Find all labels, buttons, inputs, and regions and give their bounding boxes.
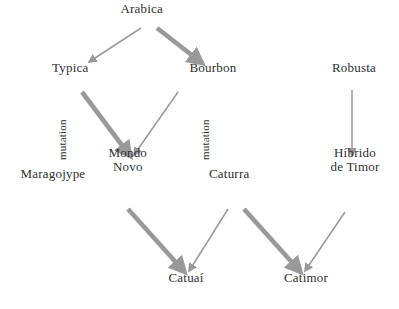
node-maragojype: Maragojype <box>21 167 86 181</box>
edge-label-mutation-typica: mutation <box>56 119 68 160</box>
node-typica: Typica <box>52 61 88 75</box>
arrow-arabica-to-bourbon <box>157 28 198 60</box>
node-catimor: Catimor <box>284 271 328 285</box>
arrow-caturra-to-catuai <box>191 209 228 268</box>
arrow-typica-to-mondo <box>82 92 127 152</box>
arrow-caturra-to-catimor <box>244 209 297 268</box>
node-catuai: Catuaí <box>169 271 204 285</box>
node-mondo-novo: Mondo Novo <box>109 146 148 174</box>
arrow-hibrido-to-catimor <box>307 212 345 268</box>
arrow-arabica-to-typica <box>92 28 141 60</box>
edge-label-mutation-bourbon: mutation <box>199 119 211 160</box>
node-caturra: Caturra <box>209 167 249 181</box>
node-arabica: Arabica <box>121 2 164 16</box>
arrow-mondo-to-catuai <box>128 209 181 268</box>
node-hibrido-de-timor: Híbrido de Timor <box>331 146 380 174</box>
coffee-lineage-diagram: ArabicaTypicaBourbonRobustaMaragojypeMon… <box>0 0 399 309</box>
node-bourbon: Bourbon <box>190 61 237 75</box>
arrow-bourbon-to-mondo <box>136 92 178 152</box>
node-robusta: Robusta <box>332 61 376 75</box>
